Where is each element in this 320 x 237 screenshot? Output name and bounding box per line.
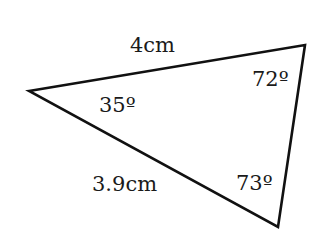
triangle-diagram: 4cm 72º 35º 3.9cm 73º <box>0 0 320 237</box>
angle-label-top-right: 72º <box>252 67 289 91</box>
side-label-top: 4cm <box>130 33 175 57</box>
side-label-bottom-left: 3.9cm <box>92 172 157 196</box>
angle-label-bottom-right: 73º <box>236 171 273 195</box>
angle-label-left: 35º <box>99 93 136 117</box>
